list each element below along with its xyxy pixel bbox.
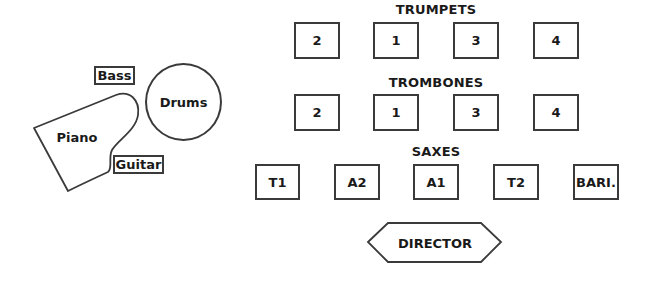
guitar-label: Guitar [113,155,164,174]
seat-label: A1 [426,175,445,190]
sax-seat-a2: A2 [334,164,380,200]
seat-label: 4 [551,33,560,48]
sax-seat-bari: BARI. [573,164,619,200]
trombone-seat-2: 2 [294,94,340,131]
sax-seat-t2: T2 [493,164,539,200]
seat-label: 2 [312,105,321,120]
trombones-heading: TROMBONES [389,75,484,90]
seat-label: 3 [471,33,480,48]
seat-label: 4 [551,105,560,120]
guitar-text: Guitar [116,157,162,172]
drums-circle: Drums [145,63,222,141]
trumpet-seat-3: 3 [453,22,499,59]
seat-label: A2 [347,175,366,190]
trombone-seat-1: 1 [373,94,419,131]
seat-label: 1 [391,33,400,48]
bass-label: Bass [94,66,135,85]
trombone-seat-4: 4 [533,94,579,131]
sax-seat-a1: A1 [413,164,459,200]
saxes-heading: SAXES [412,144,461,159]
trumpet-seat-1: 1 [373,22,419,59]
seating-chart: Bass Drums Piano Guitar TRUMPETS 2 1 3 4… [0,0,654,282]
piano-text: Piano [57,130,98,145]
seat-label: 1 [391,105,400,120]
trombone-seat-3: 3 [453,94,499,131]
seat-label: 2 [312,33,321,48]
sax-seat-t1: T1 [255,164,300,200]
seat-label: T2 [507,175,525,190]
trumpet-seat-4: 4 [533,22,579,59]
drums-text: Drums [160,95,208,110]
director-text: DIRECTOR [398,236,472,251]
seat-label: BARI. [576,175,616,190]
trumpets-heading: TRUMPETS [396,2,477,17]
seat-label: T1 [269,175,287,190]
seat-label: 3 [471,105,480,120]
trumpet-seat-2: 2 [294,22,340,59]
bass-text: Bass [97,68,131,83]
